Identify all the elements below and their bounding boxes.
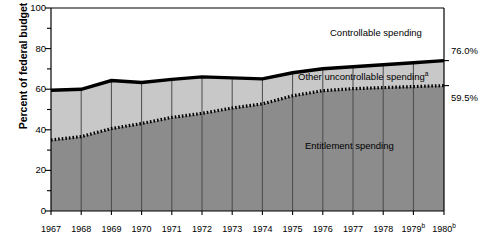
- x-tick-text: 1980: [432, 224, 452, 234]
- x-tick-text: 1967: [41, 224, 61, 234]
- controllable-spending-label: Controllable spending: [330, 27, 422, 38]
- x-tick-text: 1970: [132, 224, 152, 234]
- x-tick-label-1980: 1980b: [426, 221, 462, 234]
- x-tick-text: 1969: [101, 224, 121, 234]
- x-tick-text: 1972: [192, 224, 212, 234]
- x-tick-text: 1974: [252, 224, 272, 234]
- entitlement-boundary-end-value: 59.5%: [451, 93, 478, 103]
- x-axis-ticks: [51, 211, 444, 215]
- entitlement-spending-label: Entitlement spending: [305, 140, 394, 151]
- top-boundary-end-value: 76.0%: [451, 46, 478, 56]
- x-tick-text: 1975: [283, 224, 303, 234]
- x-tick-text: 1968: [71, 224, 91, 234]
- x-tick-text: 1971: [162, 224, 182, 234]
- other-uncontrollable-footnote-marker: a: [425, 70, 429, 77]
- end-value-leader-ticks: [444, 61, 449, 86]
- stacked-area-chart: Percent of federal budget 100 80 60 40 2…: [0, 0, 483, 252]
- other-uncontrollable-spending-text: Other uncontrollable spending: [298, 71, 425, 82]
- x-tick-text: 1979: [402, 224, 422, 234]
- x-tick-text: 1978: [373, 224, 393, 234]
- x-tick-text: 1976: [313, 224, 333, 234]
- y-axis-ticks: [45, 8, 51, 211]
- x-tick-text: 1973: [222, 224, 242, 234]
- x-tick-sup: b: [452, 222, 456, 229]
- x-tick-sup: b: [422, 222, 426, 229]
- other-uncontrollable-spending-label: Other uncontrollable spendinga: [298, 68, 428, 82]
- x-tick-text: 1977: [343, 224, 363, 234]
